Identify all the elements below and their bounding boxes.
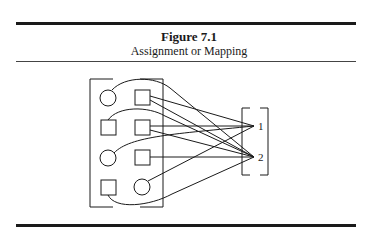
circle-element-a bbox=[100, 90, 116, 106]
codomain-label-1: 1 bbox=[258, 120, 264, 132]
codomain-label-2: 2 bbox=[258, 151, 264, 163]
codomain-bracket bbox=[242, 108, 268, 175]
circle-element-e bbox=[100, 150, 116, 166]
square-element-g bbox=[101, 180, 116, 195]
circle-element-h bbox=[134, 179, 150, 195]
mapping-lines bbox=[108, 79, 254, 204]
bottom-rule bbox=[16, 224, 356, 227]
square-element-f bbox=[135, 150, 150, 165]
mapping-diagram: 1 2 bbox=[0, 0, 378, 232]
square-element-d bbox=[135, 120, 150, 135]
square-element-b bbox=[135, 90, 150, 105]
square-element-c bbox=[101, 120, 116, 135]
